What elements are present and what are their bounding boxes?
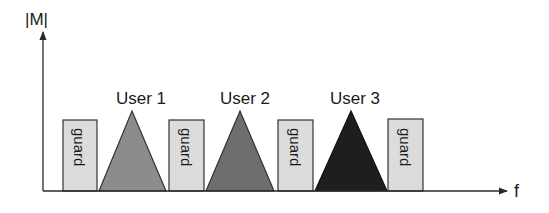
guard-band-4: guard — [388, 119, 423, 191]
guard-label: guard — [71, 128, 88, 166]
user-2-label: User 2 — [220, 89, 270, 108]
user-1-label: User 1 — [116, 89, 166, 108]
y-axis-label: |M| — [25, 10, 48, 29]
guard-label: guard — [287, 128, 304, 166]
user-1-band: User 1 — [99, 89, 166, 191]
user-2-band: User 2 — [206, 89, 274, 191]
user-3-label: User 3 — [330, 89, 380, 108]
guard-band-2: guard — [169, 120, 204, 191]
guard-band-3: guard — [278, 120, 313, 191]
user-3-band: User 3 — [315, 89, 387, 191]
guard-label: guard — [397, 128, 414, 166]
guard-label: guard — [178, 128, 195, 166]
x-axis-label: f — [514, 181, 520, 201]
guard-band-1: guard — [63, 120, 97, 191]
fdma-guard-band-diagram: |M| guard guard guard guard User 1 User … — [0, 0, 549, 213]
